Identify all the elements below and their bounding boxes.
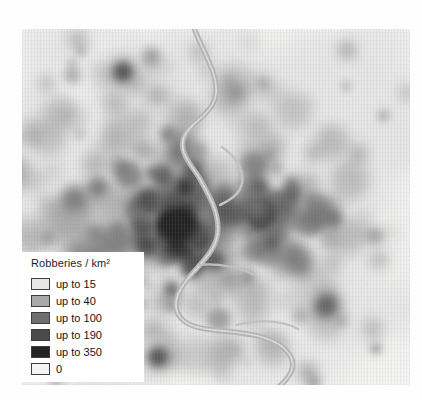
legend-item-label: up to 15 [56, 278, 96, 290]
density-cell [212, 294, 221, 303]
density-cell [191, 44, 206, 59]
legend-item-label: up to 190 [56, 329, 102, 341]
legend-item: up to 350 [31, 344, 102, 360]
density-cell [292, 308, 308, 324]
density-cell [201, 64, 213, 76]
density-cell [322, 253, 341, 272]
density-cell [264, 335, 283, 354]
legend-item-label: up to 350 [56, 346, 102, 358]
density-cell [229, 86, 244, 101]
density-cell [66, 197, 74, 205]
density-cell [387, 229, 394, 236]
density-cell [131, 185, 161, 215]
density-cell [86, 154, 109, 177]
density-cell [88, 178, 107, 197]
density-cell [42, 232, 54, 244]
density-cell [259, 79, 269, 89]
density-cell [311, 73, 334, 96]
density-cell [176, 240, 182, 246]
legend-item: up to 190 [31, 327, 102, 343]
figure-canvas: Robberies / km² up to 15up to 40up to 10… [0, 0, 422, 400]
density-cell [130, 79, 143, 92]
legend-item-label: up to 40 [56, 295, 96, 307]
density-cell [394, 222, 410, 246]
density-cell [132, 140, 152, 160]
density-cell [315, 125, 349, 159]
density-cell [108, 93, 131, 116]
density-cell [342, 82, 350, 90]
density-cell [183, 161, 200, 178]
density-cell [335, 314, 348, 327]
legend-item-label: up to 100 [56, 312, 102, 324]
density-cell [128, 109, 154, 135]
density-cell [372, 331, 379, 338]
density-cell [306, 146, 321, 161]
density-cell [370, 251, 387, 268]
legend-swatch [31, 278, 50, 290]
density-cell [152, 165, 173, 186]
density-cell [330, 161, 369, 200]
density-cell [133, 217, 153, 237]
density-cell [360, 212, 370, 222]
density-cell [68, 59, 76, 67]
density-cell [26, 129, 40, 143]
density-cell [400, 85, 410, 99]
density-cell [240, 192, 270, 222]
legend-swatch [31, 312, 50, 324]
legend-item: up to 15 [31, 276, 96, 292]
density-cell [367, 227, 384, 244]
density-cell [217, 368, 227, 378]
density-cell [275, 195, 290, 210]
density-cell [378, 110, 389, 121]
density-cell [64, 67, 81, 84]
density-cell [207, 307, 230, 330]
legend-swatch [31, 363, 50, 375]
density-cell [275, 270, 286, 281]
legend-swatch [31, 346, 50, 358]
density-cell [182, 104, 200, 122]
density-cell [252, 222, 261, 231]
density-cell [142, 47, 160, 65]
density-cell [163, 331, 174, 342]
density-cell [197, 207, 212, 222]
density-cell [176, 294, 186, 304]
density-cell [321, 231, 337, 247]
legend-item: up to 40 [31, 293, 96, 309]
density-cell [77, 47, 85, 55]
density-cell [146, 321, 164, 339]
legend-item: up to 100 [31, 310, 102, 326]
density-cell [371, 344, 381, 354]
map-legend: Robberies / km² up to 15up to 40up to 10… [22, 252, 144, 382]
density-cell [232, 344, 243, 355]
density-cell [215, 206, 235, 226]
legend-swatch [31, 329, 50, 341]
density-cell [307, 376, 321, 385]
density-cell [159, 293, 175, 309]
density-cell [292, 335, 318, 361]
density-cell [245, 243, 259, 257]
density-cell [160, 126, 176, 142]
legend-swatch [31, 295, 50, 307]
density-cell [243, 358, 250, 365]
density-cell [43, 162, 63, 182]
legend-item-label: 0 [56, 363, 62, 375]
legend-title: Robberies / km² [31, 257, 110, 269]
density-cell [270, 293, 287, 310]
density-cell [265, 235, 279, 249]
density-cell [177, 179, 193, 195]
density-cell [197, 231, 207, 241]
legend-item: 0 [31, 361, 62, 377]
density-cell [143, 342, 173, 372]
density-cell [301, 173, 321, 193]
